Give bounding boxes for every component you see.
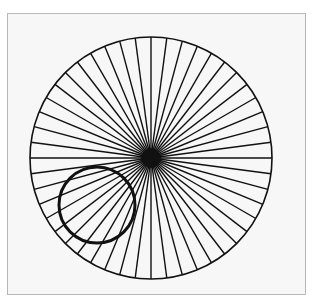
- spoke-line: [120, 41, 151, 158]
- spoke-line: [151, 127, 268, 158]
- center-dot: [141, 148, 161, 168]
- spoke-line: [120, 158, 151, 275]
- spoke-line: [151, 158, 182, 275]
- spoke-line: [151, 41, 182, 158]
- radial-spoke-diagram: [0, 0, 316, 303]
- spoke-line: [34, 127, 151, 158]
- spoke-line: [34, 158, 151, 189]
- spoke-line: [151, 158, 268, 189]
